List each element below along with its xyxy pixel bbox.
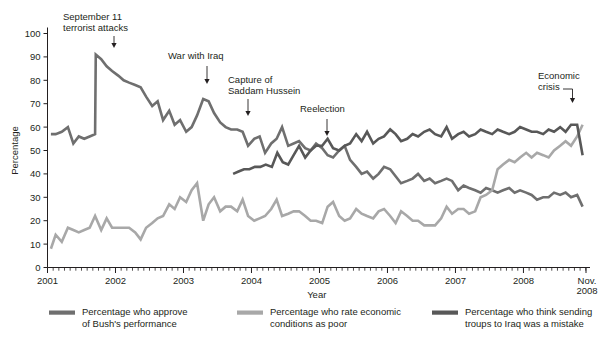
- y-tick-label: 20: [30, 215, 41, 226]
- x-tick-label: 2001: [37, 275, 58, 286]
- annotation-label-line1: Economic: [538, 70, 580, 81]
- y-tick-label: 60: [30, 122, 41, 133]
- annotation-label-line1: Reelection: [300, 103, 345, 114]
- x-tick-label: 2004: [241, 275, 262, 286]
- legend-swatch: [237, 311, 263, 315]
- annotation-label-line2: Saddam Hussein: [228, 85, 300, 96]
- y-tick-label: 40: [30, 168, 41, 179]
- legend-label-line1: Percentage who rate economic: [270, 306, 401, 317]
- y-tick-label: 100: [25, 28, 41, 39]
- legend-group: Percentage who approveof Bush's performa…: [49, 306, 592, 329]
- x-axis-title: Year: [307, 289, 326, 300]
- chart-container: 0102030405060708090100Percentage20012002…: [0, 0, 609, 347]
- legend-label-line2: of Bush's performance: [82, 318, 177, 329]
- legend-label-line2: troups to Iraq was a mistake: [465, 318, 584, 329]
- legend-swatch: [432, 311, 458, 315]
- y-axis-title: Percentage: [9, 126, 20, 175]
- x-tick-label: 2002: [105, 275, 126, 286]
- x-end-label-line1: Nov.: [578, 275, 597, 286]
- y-tick-label: 50: [30, 145, 41, 156]
- annotation-label-line1: September 11: [63, 11, 122, 22]
- annotation-label-line1: War with Iraq: [168, 50, 224, 61]
- chart-background: [0, 0, 609, 347]
- legend-swatch: [49, 311, 75, 315]
- annotation-label-line2: crisis: [538, 81, 560, 92]
- x-tick-label: 2008: [513, 275, 534, 286]
- y-tick-label: 70: [30, 98, 41, 109]
- annotation-label-line2: terrorist attacks: [63, 22, 128, 33]
- y-tick-label: 10: [30, 239, 41, 250]
- legend-label-line1: Percentage who approve: [82, 306, 188, 317]
- x-tick-label: 2007: [445, 275, 466, 286]
- y-tick-label: 30: [30, 192, 41, 203]
- y-tick-label: 90: [30, 51, 41, 62]
- legend-label-line1: Percentage who think sending: [465, 306, 592, 317]
- percentage-line-chart: 0102030405060708090100Percentage20012002…: [0, 0, 609, 347]
- x-end-label-line2: 2008: [576, 285, 597, 296]
- x-tick-label: 2006: [377, 275, 398, 286]
- legend-label-line2: conditions as poor: [270, 318, 347, 329]
- y-tick-label: 0: [35, 262, 40, 273]
- y-tick-label: 80: [30, 75, 41, 86]
- x-tick-label: 2005: [309, 275, 330, 286]
- annotation-label-line1: Capture of: [228, 74, 273, 85]
- x-tick-label: 2003: [173, 275, 194, 286]
